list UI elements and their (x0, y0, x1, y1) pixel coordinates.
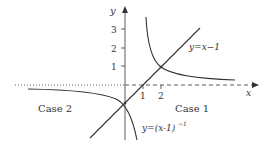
line-label: y=x−1 (188, 42, 220, 52)
x-tick-2: 2 (158, 91, 164, 101)
x-axis-arrow-icon (252, 82, 259, 88)
x-axis-label: x (246, 88, 251, 98)
y-tick-2: 2 (111, 44, 117, 54)
y-axis-arrow-icon (122, 6, 128, 13)
diagram: y x 3 2 1 1 2 y=x−1 y=(x-1) −1 Case 1 Ca… (0, 0, 270, 147)
x-tick-1: 1 (140, 91, 146, 101)
hyperbola-left-branch (28, 89, 137, 140)
case-1-label: Case 1 (175, 103, 209, 114)
y-axis-label: y (109, 5, 116, 16)
hyperbola-label: y=(x-1) (141, 123, 176, 133)
case-2-label: Case 2 (38, 103, 72, 114)
y-tick-3: 3 (111, 25, 117, 35)
hyperbola-label-exponent: −1 (178, 120, 187, 127)
y-tick-1: 1 (111, 62, 117, 72)
